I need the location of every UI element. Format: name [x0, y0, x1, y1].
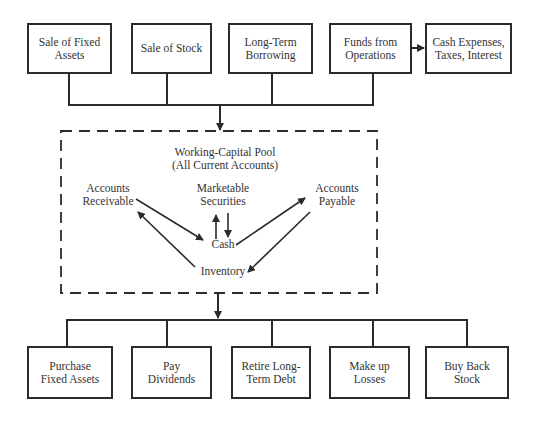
box-label: Buy Back Stock — [444, 360, 490, 386]
working-capital-diagram: Sale of Fixed Assets Sale of Stock Long-… — [0, 0, 533, 423]
box-label: Retire Long- Term Debt — [241, 360, 300, 386]
box-sale-of-fixed-assets: Sale of Fixed Assets — [27, 23, 112, 74]
node-marketable-securities: Marketable Securities — [190, 182, 256, 208]
node-accounts-payable: Accounts Payable — [308, 182, 366, 208]
box-cash-expenses-taxes-interest: Cash Expenses, Taxes, Interest — [425, 23, 512, 74]
box-label: Long-Term Borrowing — [244, 36, 296, 62]
use-connectors — [66, 320, 468, 346]
box-label: Cash Expenses, Taxes, Interest — [432, 36, 504, 62]
box-label: Sale of Fixed Assets — [39, 36, 100, 62]
box-label: Pay Dividends — [148, 360, 195, 386]
box-make-up-losses: Make up Losses — [329, 346, 410, 399]
box-funds-from-operations: Funds from Operations — [329, 23, 412, 74]
source-connectors — [68, 73, 374, 105]
box-retire-long-term-debt: Retire Long- Term Debt — [231, 346, 311, 399]
box-label: Purchase Fixed Assets — [41, 360, 99, 386]
pool-title: Working-Capital Pool (All Current Accoun… — [160, 146, 290, 172]
box-label: Make up Losses — [349, 360, 390, 386]
box-purchase-fixed-assets: Purchase Fixed Assets — [27, 346, 113, 399]
node-cash: Cash — [206, 238, 240, 251]
box-buy-back-stock: Buy Back Stock — [425, 346, 509, 399]
box-label: Funds from Operations — [344, 36, 397, 62]
node-inventory: Inventory — [197, 265, 249, 278]
box-label: Sale of Stock — [141, 42, 202, 55]
box-pay-dividends: Pay Dividends — [131, 346, 212, 399]
box-long-term-borrowing: Long-Term Borrowing — [228, 23, 313, 74]
pool-flow-arrows — [136, 198, 310, 272]
box-sale-of-stock: Sale of Stock — [131, 23, 212, 74]
node-accounts-receivable: Accounts Receivable — [74, 182, 142, 208]
